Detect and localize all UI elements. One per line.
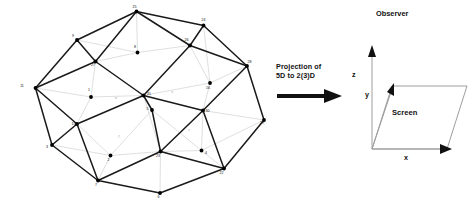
vertex-layer: 25924268272811131163029153522342276 — [20, 5, 266, 200]
vertex-label-5: 5 — [147, 107, 149, 111]
vertex-label-29: 29 — [260, 121, 264, 125]
projection-caption: Projection of 5D to 2(3)D — [276, 62, 356, 80]
graph-edge-light — [210, 66, 247, 83]
graph-vertex-16[interactable] — [208, 81, 212, 85]
vertex-label-26: 26 — [185, 38, 189, 42]
graph-edge-light — [138, 46, 191, 53]
graph-vertex-4[interactable] — [200, 149, 204, 153]
graph-edge-dark — [36, 88, 53, 145]
graph-vertex-15[interactable] — [75, 122, 79, 126]
graph-vertex-24[interactable] — [202, 24, 206, 28]
observer-title: Observer — [376, 9, 408, 18]
graph-edge-dark — [77, 12, 137, 41]
vertex-label-28: 28 — [248, 60, 252, 64]
vertex-label-3: 3 — [46, 145, 48, 149]
vertex-label-23: 23 — [156, 154, 160, 158]
graph-vertex-9[interactable] — [75, 38, 79, 42]
vertex-label-15: 15 — [72, 122, 76, 126]
graph-edge-dark — [36, 40, 78, 88]
graph-edge-dark — [224, 120, 264, 169]
graph-edge-light — [144, 96, 161, 152]
dark-edge-layer — [36, 12, 265, 194]
graph-edge-light — [77, 97, 91, 124]
graph-edge-dark — [160, 169, 224, 194]
z-axis-arrowhead — [368, 45, 376, 57]
cell-label-z: z — [187, 128, 190, 132]
graph-vertex-31[interactable] — [142, 94, 146, 98]
graph-edge-light — [137, 12, 138, 53]
vertex-label-22: 22 — [220, 171, 224, 175]
vertex-label-16: 16 — [206, 86, 210, 90]
screen-parallelogram — [372, 86, 467, 149]
graph-vertex-5[interactable] — [150, 108, 154, 112]
graph-edge-dark — [190, 26, 204, 46]
graph-vertex-23[interactable] — [159, 150, 163, 154]
graph-edge-dark — [247, 66, 264, 120]
z-axis-label: z — [352, 70, 356, 79]
projection-figure: wxyz 25924268272811131163029153522342276… — [0, 0, 469, 206]
vertex-label-30: 30 — [206, 109, 210, 113]
graph-edge-light — [202, 111, 204, 151]
graph-edge-dark — [36, 62, 96, 89]
right-arrow-icon — [276, 84, 346, 108]
screen-label: Screen — [392, 108, 417, 117]
graph-edge-dark — [36, 88, 78, 124]
vertex-label-11: 11 — [20, 84, 24, 88]
graph-edge-dark — [161, 111, 204, 152]
vertex-label-9: 9 — [72, 34, 74, 38]
vertex-label-7: 7 — [95, 183, 97, 187]
graph-vertex-8[interactable] — [136, 51, 140, 55]
graph-edge-light — [111, 110, 153, 156]
graph-edge-light — [204, 26, 211, 84]
graph-edge-dark — [98, 152, 161, 181]
graph-edge-dark — [77, 96, 144, 125]
vertex-label-6: 6 — [158, 195, 160, 199]
projection-caption-line1: Projection of — [276, 62, 321, 71]
y-axis-label: y — [365, 90, 369, 99]
graph-edge-light — [203, 111, 264, 121]
x-axis-label: x — [404, 153, 408, 162]
vertex-label-24: 24 — [202, 18, 206, 22]
vertex-label-31: 31 — [147, 92, 151, 96]
vertex-label-1: 1 — [88, 88, 90, 92]
graph-vertex-26[interactable] — [188, 44, 192, 48]
vertex-label-25: 25 — [133, 5, 137, 9]
graph-edge-dark — [190, 46, 247, 67]
graph-edge-light — [161, 151, 202, 152]
hypercube-projection-graph: wxyz 25924268272811131163029153522342276 — [0, 0, 290, 206]
graph-edge-dark — [161, 152, 225, 169]
vertex-label-2: 2 — [108, 158, 110, 162]
cell-label-x: x — [170, 90, 173, 94]
graph-edge-light — [202, 120, 265, 151]
graph-edge-light — [160, 152, 161, 194]
graph-vertex-3[interactable] — [50, 143, 54, 147]
graph-vertex-11[interactable] — [34, 86, 38, 90]
graph-vertex-1[interactable] — [89, 95, 93, 99]
graph-vertex-30[interactable] — [201, 109, 205, 113]
graph-edge-dark — [52, 124, 77, 145]
vertex-label-27: 27 — [91, 63, 95, 67]
graph-vertex-28[interactable] — [245, 64, 249, 68]
cell-label-w: w — [115, 96, 118, 100]
light-edge-layer — [36, 12, 265, 194]
projection-caption-line2: 5D to 2(3)D — [276, 71, 315, 80]
graph-edge-light — [52, 145, 111, 156]
graph-edge-light — [77, 124, 111, 156]
graph-vertex-25[interactable] — [135, 10, 139, 14]
vertex-label-8: 8 — [134, 45, 136, 49]
graph-edge-dark — [98, 181, 160, 194]
graph-edge-dark — [96, 62, 144, 96]
vertex-label-4: 4 — [205, 151, 207, 155]
cell-label-y: y — [117, 134, 120, 138]
graph-edge-dark — [204, 26, 248, 67]
